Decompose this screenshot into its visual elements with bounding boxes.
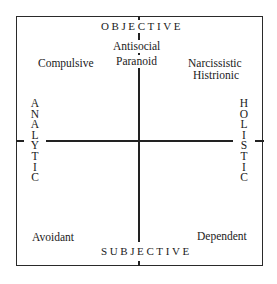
label-avoidant: Avoidant (32, 231, 74, 244)
label-compulsive: Compulsive (38, 57, 94, 70)
axis-label-objective: OBJECTIVE (100, 20, 184, 33)
letter: H (238, 98, 250, 109)
label-histrionic: Histrionic (193, 69, 239, 82)
label-antisocial: Antisocial (113, 40, 160, 53)
axis-label-holistic: H O L I S T I C (238, 98, 250, 183)
vertical-axis-bottom-tick (138, 261, 140, 266)
label-paranoid: Paranoid (116, 55, 157, 68)
letter: T (238, 151, 250, 162)
horizontal-axis-right-tick (255, 140, 264, 142)
horizontal-axis (46, 140, 233, 142)
axis-label-subjective: SUBJECTIVE (100, 245, 193, 258)
axis-label-analytic: A N A L Y T I C (29, 98, 41, 183)
label-dependent: Dependent (197, 230, 247, 243)
letter: A (29, 98, 41, 109)
letter: C (238, 172, 250, 183)
letter: T (29, 151, 41, 162)
letter: C (29, 172, 41, 183)
horizontal-axis-left-tick (16, 140, 24, 142)
